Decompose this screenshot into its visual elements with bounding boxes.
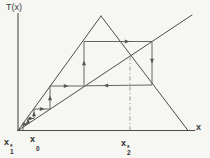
label-x0-base: x xyxy=(30,134,35,144)
label-x1-sub: 1 xyxy=(10,149,14,155)
cobweb-plot-figure: T(x) x x*1 x0 x*2 xyxy=(0,0,210,158)
label-x2-sub: 2 xyxy=(127,150,131,156)
y-axis-title: T(x) xyxy=(6,3,22,12)
label-x2-base: x xyxy=(121,138,126,148)
cobweb-arrowhead-up xyxy=(82,60,86,65)
x-axis-title: x xyxy=(196,123,201,132)
cobweb-arrowhead-down xyxy=(150,59,154,64)
label-x2-star-fixed-point: x*2 xyxy=(121,139,131,156)
tent-map-right-branch xyxy=(101,16,188,131)
cobweb-arrowhead-up xyxy=(32,111,36,116)
cobweb-arrowhead-right xyxy=(40,107,45,111)
label-x1-star-fixed-point: x*1 xyxy=(4,138,14,155)
cobweb-arrowhead-right xyxy=(64,84,69,88)
tent-map-left-branch xyxy=(18,16,101,131)
cobweb-arrowhead-right xyxy=(29,117,34,121)
cobweb-arrowhead-right xyxy=(125,40,130,44)
label-x0-sub: 0 xyxy=(36,146,40,152)
label-x0-initial-point: x0 xyxy=(30,135,40,152)
cobweb-arrowhead-left xyxy=(103,83,108,87)
label-x1-base: x xyxy=(4,137,9,147)
cobweb-arrowhead-up xyxy=(48,95,52,100)
identity-line xyxy=(18,15,192,131)
